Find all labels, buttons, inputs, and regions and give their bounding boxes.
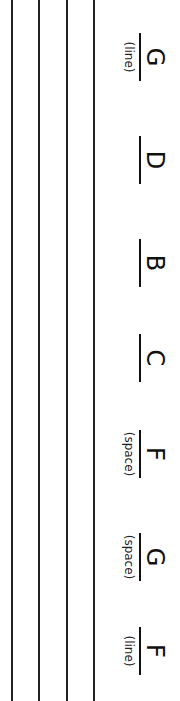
note-item: F (space) [112, 430, 172, 478]
note-position-hint [121, 328, 137, 388]
note-position-hint: (space) [121, 424, 137, 484]
note-item: B [112, 239, 172, 287]
note-letter: F [142, 430, 168, 478]
staff-line [66, 0, 68, 701]
note-letter: B [142, 239, 168, 287]
note-position-hint [121, 233, 137, 293]
staff-line [93, 0, 95, 701]
staff-line [11, 0, 13, 701]
staff-line [38, 0, 40, 701]
note-letter: D [142, 136, 168, 184]
note-item: D [112, 136, 172, 184]
note-letter: C [142, 334, 168, 382]
note-item: G (line) [112, 33, 172, 81]
note-position-hint [121, 130, 137, 190]
note-letter: G [142, 533, 168, 581]
note-position-hint: (space) [121, 527, 137, 587]
note-position-hint: (line) [121, 27, 137, 87]
note-item: C [112, 334, 172, 382]
note-item: F (line) [112, 627, 172, 675]
note-letter: F [142, 627, 168, 675]
note-item: G (space) [112, 533, 172, 581]
note-position-hint: (line) [121, 621, 137, 681]
note-letter: G [142, 33, 168, 81]
